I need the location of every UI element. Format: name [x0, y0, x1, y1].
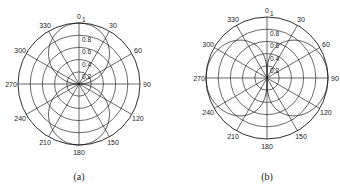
angular-grid-spoke [214, 78, 267, 109]
polar-chart-b: 03060901201501802102402703003300.20.40.6… [193, 7, 339, 184]
angular-grid-spoke [237, 25, 268, 78]
angle-tick-label: 240 [14, 115, 26, 122]
angle-tick-label: 210 [227, 133, 239, 140]
angle-tick-label: 150 [107, 139, 119, 146]
angle-tick-label: 120 [132, 115, 144, 122]
angle-tick-label: 0 [265, 7, 269, 14]
radial-tick-label: 0.8 [82, 36, 91, 43]
angle-tick-label: 210 [39, 139, 51, 146]
angle-tick-label: 60 [134, 47, 142, 54]
angle-tick-label: 240 [202, 109, 214, 116]
angular-grid-spoke [49, 31, 80, 84]
angle-tick-label: 300 [14, 47, 26, 54]
radial-tick-label: 0.4 [82, 61, 91, 68]
angular-grid-spoke [79, 84, 110, 137]
radial-tick-label: 0.6 [82, 48, 91, 55]
angle-tick-label: 180 [73, 149, 85, 156]
angle-tick-label: 0 [77, 13, 81, 20]
angular-grid-spoke [237, 78, 268, 131]
angle-tick-label: 30 [297, 16, 305, 23]
radial-tick-label: 1 [82, 16, 86, 23]
radial-tick-label: 0.6 [270, 42, 279, 49]
angle-tick-label: 180 [261, 143, 273, 150]
radial-tick-label: 0.2 [82, 73, 91, 80]
angle-tick-label: 270 [193, 75, 205, 82]
polar-charts-figure: 03060901201501802102402703003300.20.40.6… [0, 0, 340, 189]
angle-tick-label: 330 [227, 16, 239, 23]
polar-chart-a: 03060901201501802102402703003300.20.40.6… [5, 13, 151, 184]
figure-caption: (a) [73, 171, 84, 183]
angular-grid-spoke [49, 84, 80, 137]
angular-grid-spoke [267, 78, 320, 109]
angular-grid-spoke [214, 48, 267, 79]
angle-tick-label: 270 [5, 81, 17, 88]
radial-tick-label: 0.4 [270, 55, 279, 62]
angle-tick-label: 120 [320, 109, 332, 116]
angle-tick-label: 60 [322, 41, 330, 48]
radial-tick-label: 0.2 [270, 67, 279, 74]
angle-tick-label: 150 [295, 133, 307, 140]
angular-grid-spoke [267, 78, 298, 131]
angle-tick-label: 90 [143, 81, 151, 88]
radial-tick-label: 1 [270, 10, 274, 17]
angle-tick-label: 330 [39, 22, 51, 29]
radial-tick-label: 0.8 [270, 30, 279, 37]
figure-caption: (b) [261, 171, 273, 183]
angle-tick-label: 30 [109, 22, 117, 29]
angle-tick-label: 90 [331, 75, 339, 82]
angle-tick-label: 300 [202, 41, 214, 48]
